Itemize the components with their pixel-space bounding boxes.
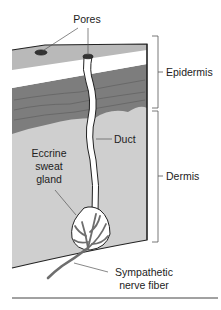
- epidermis-label: Epidermis: [166, 66, 213, 78]
- nerve-leader: [74, 263, 108, 272]
- pores-label: Pores: [73, 13, 100, 25]
- nerve-label-line1: Sympathetic: [115, 266, 173, 278]
- gland-label-line1: Eccrine: [31, 147, 66, 159]
- gland-label-line3: gland: [36, 173, 62, 185]
- epidermis-bracket: [152, 36, 158, 108]
- pore-icon: [35, 50, 47, 55]
- gland-label-line2: sweat: [35, 160, 63, 172]
- nerve-label-line2: nerve fiber: [119, 279, 169, 291]
- dermis-bracket: [152, 111, 158, 242]
- sweat-gland-diagram: Pores Epidermis Duct Dermis Eccrine swea…: [0, 0, 221, 310]
- dermis-label: Dermis: [166, 170, 199, 182]
- duct-label: Duct: [114, 133, 136, 145]
